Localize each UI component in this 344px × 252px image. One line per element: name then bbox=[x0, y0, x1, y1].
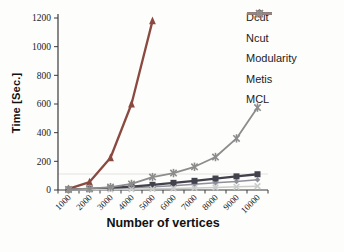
y-tick-label: 1200 bbox=[32, 13, 51, 23]
y-tick-label: 600 bbox=[37, 99, 52, 109]
y-tick-label: 800 bbox=[37, 71, 52, 81]
x-tick-label: 5000 bbox=[137, 192, 157, 212]
legend: DcutNcutModularityMetisMCL bbox=[246, 7, 297, 110]
series-mcl bbox=[65, 103, 260, 193]
y-tick-label: 400 bbox=[37, 128, 52, 138]
y-axis-title: Time [Sec.] bbox=[10, 51, 22, 155]
series-modularity bbox=[65, 16, 156, 192]
y-tick-label: 0 bbox=[46, 185, 51, 195]
y-tick-label: 200 bbox=[37, 157, 52, 167]
x-tick-label: 6000 bbox=[158, 192, 178, 212]
x-tick-label: 10000 bbox=[239, 192, 262, 215]
x-tick-label: 9000 bbox=[221, 192, 241, 212]
x-tick-label: 3000 bbox=[95, 192, 115, 212]
chart-figure: 0200400600800100012001000200030004000500… bbox=[0, 0, 344, 252]
legend-label: Ncut bbox=[246, 32, 269, 44]
y-tick-label: 1000 bbox=[32, 42, 51, 52]
x-tick-label: 7000 bbox=[179, 192, 199, 212]
legend-item-modularity: Modularity bbox=[246, 48, 297, 69]
legend-item-ncut: Ncut bbox=[246, 28, 297, 49]
x-tick-label: 2000 bbox=[74, 192, 94, 212]
legend-marker-asterisk-icon bbox=[246, 7, 273, 20]
legend-label: Modularity bbox=[246, 52, 297, 64]
x-tick-label: 4000 bbox=[116, 192, 136, 212]
x-tick-label: 8000 bbox=[200, 192, 220, 212]
x-axis-title: Number of vertices bbox=[58, 216, 268, 230]
legend-label: MCL bbox=[246, 93, 269, 105]
legend-item-mcl: MCL bbox=[246, 89, 297, 110]
x-tick-label: 1000 bbox=[53, 192, 73, 212]
legend-label: Metis bbox=[246, 73, 272, 85]
legend-item-metis: Metis bbox=[246, 69, 297, 90]
